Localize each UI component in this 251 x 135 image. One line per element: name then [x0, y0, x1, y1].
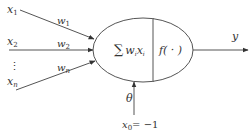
activation-label: f( · ) [158, 44, 182, 57]
weight-label-2: w2 [57, 38, 70, 51]
input-label-1: x1 [7, 3, 18, 17]
summation-label: ∑wixi [114, 42, 145, 57]
weight-label-n: wn [57, 62, 71, 75]
neuron-diagram: x1 x2 ⋮ xn w1 w2 wn ∑wixi f( · ) y θ x0=… [0, 0, 251, 135]
ellipsis: ⋮ [9, 60, 20, 73]
input-label-2: x2 [7, 35, 18, 49]
output-label: y [231, 30, 239, 43]
bias-input-label: x0= −1 [122, 119, 158, 132]
bias-weight-label: θ [126, 92, 133, 105]
input-arrow-n [16, 61, 95, 90]
input-label-n: xn [7, 75, 18, 89]
weight-label-1: w1 [57, 15, 70, 28]
